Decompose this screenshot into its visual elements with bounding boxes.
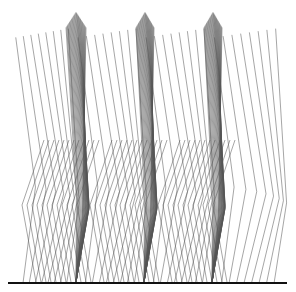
leg-frame-line (249, 32, 273, 282)
gait-diagram (0, 0, 296, 292)
gait-stick-figure-plot (0, 0, 296, 292)
leg-frame-line (241, 34, 266, 282)
leg-frame-line (38, 34, 63, 282)
leg-frame-line (16, 37, 36, 282)
leg-segment-lines (16, 13, 287, 282)
leg-frame-line (274, 29, 286, 282)
leg-frame-line (267, 30, 284, 282)
